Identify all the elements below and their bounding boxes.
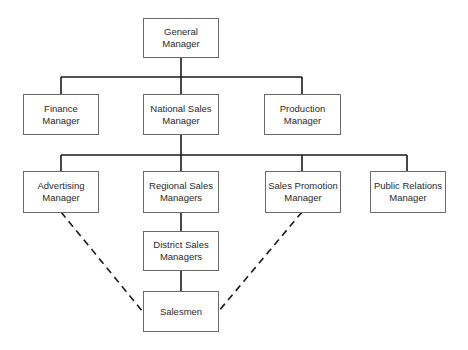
node-advertising-manager: Advertising Manager (23, 171, 99, 213)
node-label: District Sales (153, 239, 208, 251)
node-label: Regional Sales (149, 180, 213, 192)
node-label: Public Relations (374, 180, 442, 192)
node-national-sales-manager: National Sales Manager (143, 94, 219, 135)
node-label: Manager (42, 192, 80, 204)
node-district-sales-managers: District Sales Managers (143, 231, 219, 271)
node-label: Managers (160, 192, 202, 204)
node-sales-promotion-manager: Sales Promotion Manager (265, 171, 341, 213)
node-regional-sales-managers: Regional Sales Managers (143, 171, 219, 213)
node-label: Sales Promotion (268, 180, 338, 192)
node-salesmen: Salesmen (143, 291, 219, 332)
node-label: Manager (162, 115, 200, 127)
node-label: Manager (42, 115, 80, 127)
node-label: Salesmen (160, 306, 202, 318)
node-label: National Sales (150, 103, 211, 115)
node-production-manager: Production Manager (264, 94, 341, 135)
node-label: Managers (160, 251, 202, 263)
node-label: Finance (44, 103, 78, 115)
org-chart: General Manager Finance Manager National… (0, 0, 468, 350)
dashed-promotion-to-salesmen (218, 212, 302, 312)
dashed-advertising-to-salesmen (61, 212, 143, 312)
node-label: Production (280, 103, 325, 115)
node-label: General (164, 26, 198, 38)
node-label: Manager (284, 192, 322, 204)
node-label: Manager (284, 115, 322, 127)
node-general-manager: General Manager (143, 18, 219, 58)
node-label: Manager (389, 192, 427, 204)
node-public-relations-manager: Public Relations Manager (370, 171, 446, 213)
node-finance-manager: Finance Manager (23, 94, 99, 135)
node-label: Manager (162, 38, 200, 50)
node-label: Advertising (38, 180, 85, 192)
